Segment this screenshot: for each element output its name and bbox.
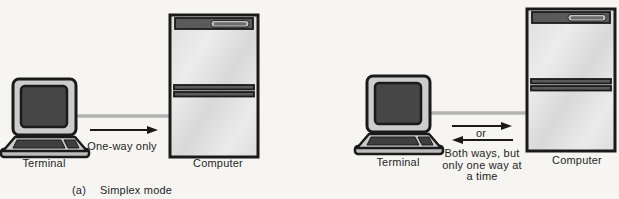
arrow-right-icon	[90, 126, 158, 134]
computer-label: Computer	[552, 155, 602, 166]
or-label: or	[476, 128, 486, 139]
arrow-head	[452, 136, 463, 144]
computer-label: Computer	[193, 158, 243, 169]
terminal-icon	[355, 76, 443, 154]
computer-tower-icon	[170, 15, 258, 157]
simplex-panel	[1, 15, 258, 157]
terminal-icon	[1, 79, 89, 157]
computer-tower-icon	[527, 9, 615, 151]
arrow-head	[501, 122, 512, 130]
terminal-label: Terminal	[376, 157, 419, 168]
diagram-art	[0, 0, 619, 199]
caption-index: (a)	[72, 185, 86, 196]
arrow-head	[147, 126, 158, 134]
arrow-label-line-3: a time	[442, 171, 521, 183]
arrow-label-line-1: Both ways, but	[442, 148, 521, 160]
terminal-label: Terminal	[22, 158, 65, 169]
caption-text: Simplex mode	[100, 185, 172, 196]
panel-caption: (a) Simplex mode	[72, 185, 172, 196]
one-way-arrow-label: One-way only	[87, 141, 157, 152]
both-ways-arrow-label: Both ways, but only one way at a time	[442, 148, 521, 183]
figure-canvas: Terminal Computer One-way only (a) Simpl…	[0, 0, 619, 199]
